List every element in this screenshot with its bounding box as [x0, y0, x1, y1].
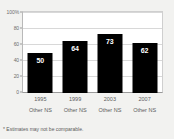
x-label-group-1995: 1995 Other NS — [23, 96, 58, 113]
bar-1999[interactable]: 64 — [63, 41, 88, 93]
bar-value-2007: 62 — [132, 47, 157, 54]
y-axis: 100% 80 60 40 20 0 — [0, 0, 22, 94]
y-tick-label-40: 40 — [14, 58, 19, 63]
bar-slot-2003: 73 — [93, 12, 128, 93]
y-tick-label-80: 80 — [14, 26, 19, 31]
y-tick-label-0: 0 — [16, 90, 19, 95]
bar-slot-1995: 50 — [23, 12, 58, 93]
bar-chart-figure: 100% 80 60 40 20 0 50 64 73 — [0, 0, 174, 139]
x-year-1999: 1999 — [58, 96, 93, 102]
x-year-1995: 1995 — [23, 96, 58, 102]
y-tick-label-60: 60 — [14, 42, 19, 47]
y-tick-mark-60 — [20, 44, 22, 45]
x-sublabel-2003: Other NS — [93, 107, 128, 113]
bar-value-1995: 50 — [28, 57, 53, 64]
bar-2007[interactable]: 62 — [132, 43, 157, 93]
x-year-2003: 2003 — [93, 96, 128, 102]
y-tick-mark-0 — [20, 92, 22, 93]
y-tick-mark-80 — [20, 28, 22, 29]
y-tick-mark-20 — [20, 76, 22, 77]
y-tick-mark-100 — [20, 12, 22, 13]
chart-footnote: * Estimates may not be comparable. — [3, 126, 83, 132]
x-label-group-2007: 2007 Other NS — [127, 96, 162, 113]
bar-1995[interactable]: 50 — [28, 53, 53, 94]
x-axis: 1995 Other NS 1999 Other NS 2003 Other N… — [23, 96, 162, 122]
bar-slot-2007: 62 — [127, 12, 162, 93]
x-sublabel-2007: Other NS — [127, 107, 162, 113]
x-sublabel-1999: Other NS — [58, 107, 93, 113]
bar-2003[interactable]: 73 — [97, 34, 122, 93]
y-tick-label-20: 20 — [14, 74, 19, 79]
bar-slot-1999: 64 — [58, 12, 93, 93]
x-label-group-2003: 2003 Other NS — [93, 96, 128, 113]
y-tick-label-100: 100% — [7, 10, 19, 15]
y-tick-mark-40 — [20, 60, 22, 61]
bars-container: 50 64 73 62 — [23, 12, 162, 93]
x-sublabel-1995: Other NS — [23, 107, 58, 113]
x-label-group-1999: 1999 Other NS — [58, 96, 93, 113]
bar-value-1999: 64 — [63, 45, 88, 52]
bar-value-2003: 73 — [97, 38, 122, 45]
x-year-2007: 2007 — [127, 96, 162, 102]
